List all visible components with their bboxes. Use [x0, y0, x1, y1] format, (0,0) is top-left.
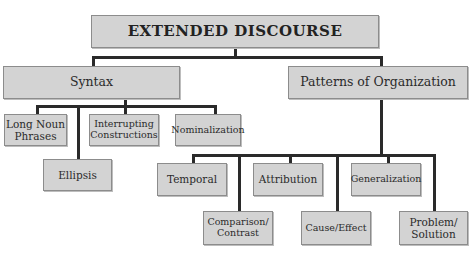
node-label: Generalization: [351, 174, 422, 185]
connector-to-long-noun: [36, 105, 39, 114]
node-label: Patterns of Organization: [300, 75, 456, 89]
connector-patterns-down: [380, 98, 383, 156]
node-label: Interrupting Constructions: [90, 119, 157, 141]
node-label: Syntax: [70, 75, 113, 89]
node-label: Comparison/ Contrast: [207, 217, 268, 239]
node-syntax: Syntax: [3, 66, 180, 99]
connector-to-comparison: [238, 154, 241, 211]
node-label: Ellipsis: [58, 169, 97, 181]
connector-to-temporal: [192, 154, 195, 163]
connector-to-ellipsis: [77, 105, 80, 159]
node-label: Problem/ Solution: [409, 216, 457, 240]
diagram-canvas: EXTENDED DISCOURSE Syntax Patterns of Or…: [0, 0, 472, 254]
connector-to-cause-effect: [336, 154, 339, 211]
connector-to-nominalization: [214, 105, 217, 114]
connector-to-interrupting: [124, 105, 127, 114]
node-generalization: Generalization: [351, 163, 421, 196]
node-extended-discourse: EXTENDED DISCOURSE: [91, 15, 379, 48]
node-label: Long Noun Phrases: [6, 118, 65, 142]
node-nominalization: Nominalization: [175, 114, 241, 146]
node-attribution: Attribution: [253, 163, 323, 196]
connector-root-bar: [92, 56, 383, 59]
node-patterns-of-organization: Patterns of Organization: [288, 66, 468, 99]
connector-patterns-bar: [192, 154, 436, 157]
node-label: Temporal: [167, 173, 217, 185]
node-cause-effect: Cause/Effect: [301, 211, 371, 245]
node-ellipsis: Ellipsis: [43, 159, 112, 191]
node-label: Nominalization: [171, 125, 244, 136]
node-long-noun-phrases: Long Noun Phrases: [4, 114, 67, 146]
node-label: EXTENDED DISCOURSE: [128, 23, 343, 40]
connector-to-attribution: [289, 154, 292, 163]
node-label: Attribution: [259, 173, 317, 185]
connector-to-patterns: [380, 56, 383, 66]
connector-to-problem-solution: [433, 154, 436, 211]
node-label: Cause/Effect: [305, 223, 366, 234]
node-comparison-contrast: Comparison/ Contrast: [203, 211, 273, 245]
node-problem-solution: Problem/ Solution: [399, 211, 468, 245]
node-temporal: Temporal: [157, 163, 227, 196]
connector-to-generalization: [387, 154, 390, 163]
connector-to-syntax: [92, 56, 95, 66]
node-interrupting-constructions: Interrupting Constructions: [89, 114, 159, 146]
